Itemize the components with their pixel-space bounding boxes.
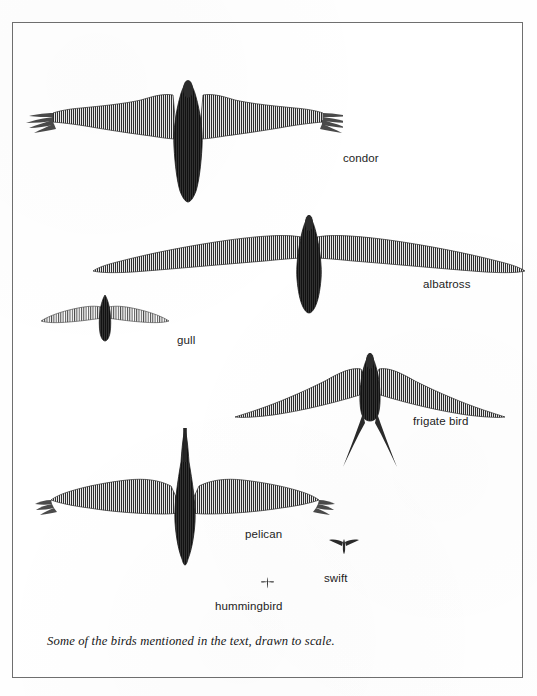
pelican-silhouette xyxy=(35,428,335,578)
bird-label-albatross: albatross xyxy=(423,278,471,290)
illustration-plate: condor albatross gull frigate bird pelic… xyxy=(13,23,524,679)
bird-label-swift: swift xyxy=(324,572,348,584)
gull-silhouette xyxy=(35,293,175,347)
bird-label-pelican: pelican xyxy=(245,528,282,540)
figure-frame: condor albatross gull frigate bird pelic… xyxy=(12,22,523,678)
figure-page: condor albatross gull frigate bird pelic… xyxy=(0,0,537,696)
condor-silhouette xyxy=(23,73,343,213)
swift-silhouette xyxy=(327,537,361,557)
bird-label-frigate-bird: frigate bird xyxy=(413,415,469,427)
bird-label-gull: gull xyxy=(177,334,195,346)
bird-label-hummingbird: hummingbird xyxy=(215,600,283,612)
bird-label-condor: condor xyxy=(343,152,379,164)
figure-caption: Some of the birds mentioned in the text,… xyxy=(47,634,335,649)
hummingbird-silhouette xyxy=(260,575,275,590)
